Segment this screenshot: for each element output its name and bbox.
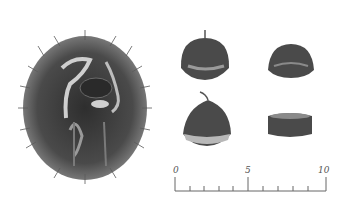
- scale-bar: 0 5 10: [168, 165, 336, 197]
- scale-label-5: 5: [245, 165, 251, 175]
- chestnut-top-view-image: [266, 40, 316, 80]
- chestnut-burr-image: [14, 26, 156, 186]
- scale-ruler: [168, 175, 336, 195]
- chestnut-illustration: 0 5 10: [0, 0, 346, 211]
- scale-label-0: 0: [173, 165, 179, 175]
- chestnut-end-view-image: [266, 110, 314, 140]
- scale-label-10: 10: [318, 165, 329, 175]
- chestnut-front-view-image: [180, 90, 234, 148]
- chestnut-side-view-image: [178, 30, 232, 82]
